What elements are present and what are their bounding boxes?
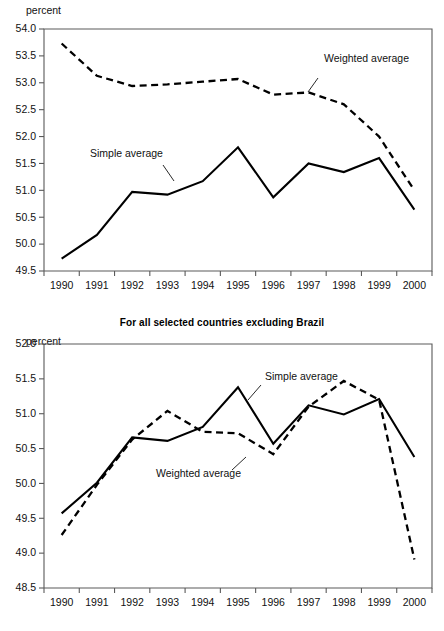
annotation-simple-average-bottom-leader: [248, 385, 261, 400]
x-tick-label: 1999: [367, 596, 391, 608]
annotation-weighted-average-top: Weighted average: [324, 52, 409, 64]
y-tick-label: 51.5: [16, 372, 37, 384]
x-tick-label: 1990: [50, 596, 74, 608]
y-tick-label: 53.0: [16, 76, 37, 88]
x-tick-label: 1992: [121, 279, 145, 291]
y-tick-label: 51.5: [16, 157, 37, 169]
y-tick-label: 50.5: [16, 211, 37, 223]
x-tick-label: 1998: [332, 279, 356, 291]
x-tick-label: 1997: [297, 596, 321, 608]
y-tick-label: 52.0: [16, 337, 37, 349]
y-tick-label: 50.5: [16, 442, 37, 454]
y-tick-label: 52.0: [16, 130, 37, 142]
annotation-simple-average-top-leader: [163, 165, 174, 181]
chart-top-all-countries: percent 49.550.050.551.051.552.052.553.0…: [0, 0, 444, 312]
x-tick-label: 1993: [156, 279, 180, 291]
x-tick-label: 2000: [403, 279, 427, 291]
x-tick-label: 1990: [50, 279, 74, 291]
series-line-simple-average: [62, 387, 415, 513]
plot-area-bottom: 48.549.049.550.050.551.051.552.019901991…: [0, 312, 444, 631]
x-tick-label: 1992: [121, 596, 145, 608]
y-tick-label: 52.5: [16, 103, 37, 115]
x-tick-label: 1998: [332, 596, 356, 608]
chart-bottom-excluding-brazil: For all selected countries excluding Bra…: [0, 312, 444, 631]
y-tick-label: 50.0: [16, 477, 37, 489]
x-tick-label: 1994: [191, 279, 215, 291]
x-tick-label: 1995: [226, 279, 250, 291]
y-tick-label: 49.0: [16, 546, 37, 558]
series-line-weighted-average: [62, 44, 415, 191]
y-tick-label: 49.5: [16, 264, 37, 276]
y-tick-label: 49.5: [16, 512, 37, 524]
annotation-simple-average-top: Simple average: [90, 147, 163, 159]
x-tick-label: 1991: [85, 596, 109, 608]
y-tick-label: 53.5: [16, 49, 37, 61]
annotation-weighted-average-bottom: Weighted average: [156, 467, 241, 479]
x-tick-label: 1994: [191, 596, 215, 608]
y-tick-label: 48.5: [16, 581, 37, 593]
x-tick-label: 1993: [156, 596, 180, 608]
y-tick-label: 51.0: [16, 184, 37, 196]
series-line-simple-average: [62, 147, 415, 258]
y-tick-label: 51.0: [16, 407, 37, 419]
x-tick-label: 2000: [403, 596, 427, 608]
annotation-simple-average-bottom: Simple average: [265, 370, 338, 382]
plot-area-top: 49.550.050.551.051.552.052.553.053.554.0…: [0, 0, 444, 312]
x-tick-label: 1995: [226, 596, 250, 608]
x-tick-label: 1991: [85, 279, 109, 291]
y-tick-label: 54.0: [16, 22, 37, 34]
x-tick-label: 1996: [262, 596, 286, 608]
annotation-weighted-average-top-leader: [308, 78, 318, 92]
x-tick-label: 1996: [262, 279, 286, 291]
x-tick-label: 1997: [297, 279, 321, 291]
y-tick-label: 50.0: [16, 237, 37, 249]
x-tick-label: 1999: [367, 279, 391, 291]
